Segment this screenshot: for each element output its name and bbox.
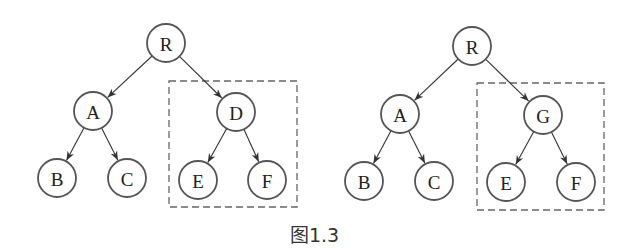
node-label: F	[571, 173, 582, 194]
node-label: E	[500, 173, 512, 194]
left-tree-node-A: A	[74, 92, 112, 130]
right-tree-edge-G-F	[551, 132, 567, 164]
left-tree-edge-D-E	[208, 129, 227, 163]
right-tree-node-F: F	[557, 163, 595, 201]
right-tree-edge-A-B	[374, 131, 392, 164]
node-label: B	[51, 169, 64, 190]
node-label: A	[86, 102, 100, 123]
left-tree-edge-A-C	[102, 128, 118, 160]
left-tree-node-C: C	[108, 159, 146, 197]
node-label: C	[121, 169, 134, 190]
node-label: F	[262, 171, 273, 192]
right-tree-node-B: B	[345, 162, 383, 200]
left-tree-node-D: D	[217, 93, 255, 131]
right-tree-node-G: G	[524, 96, 562, 134]
left-tree-edge-D-F	[244, 129, 259, 162]
node-label: B	[358, 172, 371, 193]
left-tree-node-E: E	[179, 161, 217, 199]
left-tree-edge-R-D	[180, 56, 222, 98]
left-tree-node-R: R	[147, 24, 185, 62]
right-tree-edge-R-A	[415, 59, 459, 100]
node-label: R	[466, 37, 479, 58]
right-tree-edge-G-E	[516, 132, 534, 165]
node-label: A	[393, 105, 407, 126]
right-tree-edge-R-G	[486, 59, 529, 101]
right-tree-node-E: E	[487, 163, 525, 201]
node-label: E	[192, 171, 204, 192]
left-tree-node-F: F	[248, 161, 286, 199]
left-tree-edge-R-A	[108, 56, 153, 97]
tree-diagram: RADBCEFRAGBCEF	[0, 0, 629, 251]
right-tree-edge-A-C	[409, 131, 425, 163]
right-tree-node-R: R	[453, 27, 491, 65]
node-label: G	[536, 106, 550, 127]
left-tree-node-B: B	[38, 159, 76, 197]
right-tree-node-A: A	[381, 95, 419, 133]
right-tree-node-C: C	[415, 162, 453, 200]
node-label: C	[428, 172, 441, 193]
figure-caption: 图1.3	[0, 220, 629, 247]
node-label: D	[229, 103, 243, 124]
node-label: R	[160, 34, 173, 55]
left-tree-edge-A-B	[67, 128, 85, 161]
